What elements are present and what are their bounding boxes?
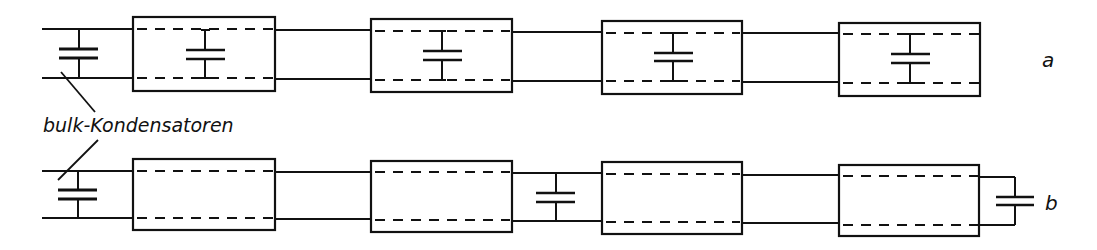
bulk-capacitor-diagram: a bulk-Kondensatoren [0, 0, 1097, 250]
row-b-external-capacitor-2-3 [536, 173, 575, 221]
row-b-module-2 [371, 161, 512, 232]
row-a-label: a [1042, 48, 1054, 72]
row-a: a [42, 17, 1054, 96]
row-a-module-3 [602, 21, 742, 94]
row-b: b [42, 159, 1058, 236]
row-b-module-4 [839, 165, 979, 236]
row-a-module-3-capacitor [654, 33, 693, 81]
row-a-module-4 [839, 23, 980, 96]
row-a-bulk-capacitor [59, 29, 98, 78]
row-a-module-4-capacitor [891, 34, 930, 83]
row-a-module-2-capacitor [423, 31, 462, 80]
row-a-module-1 [133, 17, 275, 91]
row-a-module-1-capacitor [186, 30, 225, 78]
row-b-module-3 [602, 162, 742, 234]
row-b-end-capacitor [979, 177, 1034, 225]
bulk-capacitors-label: bulk-Kondensatoren [43, 114, 234, 136]
row-b-module-1 [133, 159, 275, 230]
row-b-label: b [1045, 191, 1058, 215]
row-a-module-2 [371, 19, 512, 92]
row-b-bulk-capacitor [58, 171, 97, 218]
